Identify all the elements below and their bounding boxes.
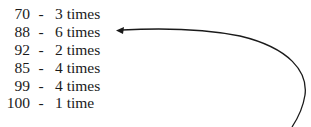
curved-arrow-icon bbox=[0, 0, 311, 127]
arrowhead-icon bbox=[116, 27, 124, 34]
